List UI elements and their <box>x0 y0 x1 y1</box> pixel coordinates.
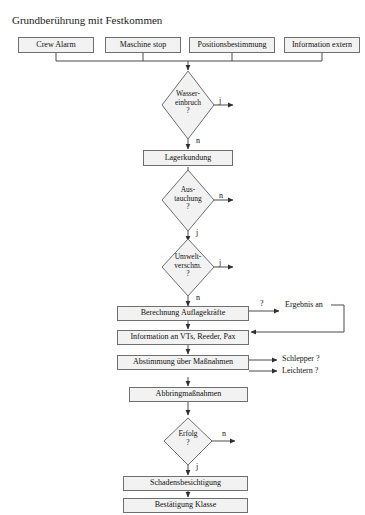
process-box-bestaetigung-klasse[interactable]: Bestätigung Klasse <box>123 498 248 513</box>
input-box-label: Information extern <box>292 41 352 49</box>
branch-label-umwelt-j: j <box>219 258 221 267</box>
process-box-information-vts-reeder-pax[interactable]: Information an VTs, Reeder, Pax <box>117 330 249 345</box>
decision-erfolg-shape <box>164 418 212 465</box>
input-box-crew-alarm[interactable]: Crew Alarm <box>18 37 94 53</box>
side-output-ergebnis-an: Ergebnis an <box>285 300 323 309</box>
branch-label-austauchung-n: n <box>219 191 223 200</box>
process-box-label: Abbringmaßnahmen <box>156 390 222 398</box>
process-box-label: Information an VTs, Reeder, Pax <box>130 333 235 341</box>
branch-label-wassereinbruch-j: j <box>219 96 221 105</box>
decision-wassereinbruch-shape <box>162 71 214 139</box>
branch-label-umwelt-n: n <box>196 293 200 302</box>
decision-austauchung-shape <box>162 170 214 231</box>
input-box-positionsbestimmung[interactable]: Positionsbestimmung <box>189 37 275 53</box>
process-box-lagerkundung[interactable]: Lagerkundung <box>143 150 233 166</box>
process-box-abbringmassnahmen[interactable]: Abbringmaßnahmen <box>129 387 248 402</box>
connector-ergebnis-loop-back <box>251 305 344 332</box>
branch-label-austauchung-j: j <box>196 228 198 237</box>
input-box-maschine-stop[interactable]: Maschine stop <box>105 37 181 53</box>
process-box-berechnung-auflagekraefte[interactable]: Berechnung Auflagekräfte <box>117 306 249 321</box>
branch-label-wassereinbruch-n: n <box>196 136 200 145</box>
process-box-schadensbesichtigung[interactable]: Schadensbesichtigung <box>123 476 248 491</box>
input-box-label: Positionsbestimmung <box>198 41 267 49</box>
branch-label-erfolg-j: j <box>196 462 198 471</box>
input-box-label: Maschine stop <box>120 41 166 49</box>
side-output-schlepper: Schlepper ? <box>282 354 320 363</box>
decision-umwelt-shape <box>162 239 214 296</box>
edge-label-berechnung-query: ? <box>260 299 264 308</box>
flowchart-page: Grundberührung mit Festkommen <box>0 0 365 515</box>
side-output-leichtern: Leichtern ? <box>282 366 318 375</box>
process-box-label: Bestätigung Klasse <box>155 501 217 509</box>
process-box-abstimmung-massnahmen[interactable]: Abstimmung über Maßnahmen <box>117 355 249 370</box>
process-box-label: Berechnung Auflagekräfte <box>141 309 226 317</box>
process-box-label: Schadensbesichtigung <box>150 479 221 487</box>
input-box-information-extern[interactable]: Information extern <box>284 37 360 53</box>
process-box-label: Abstimmung über Maßnahmen <box>133 358 233 366</box>
connector-layer <box>0 0 365 515</box>
input-box-label: Crew Alarm <box>36 41 75 49</box>
branch-label-erfolg-n: n <box>222 429 226 438</box>
process-box-label: Lagerkundung <box>165 154 212 162</box>
